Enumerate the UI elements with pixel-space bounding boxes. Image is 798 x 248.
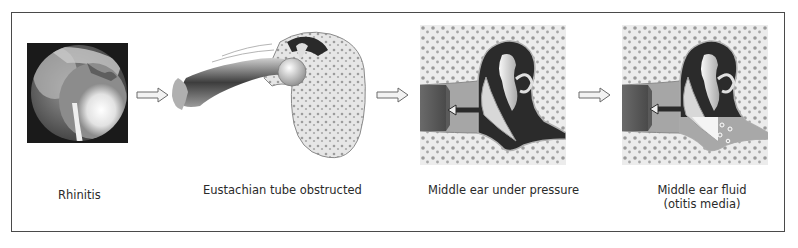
stage-label-eustachian: Eustachian tube obstructed <box>203 183 362 197</box>
eustachian-tube-illustration <box>172 24 370 164</box>
right-arrow-icon <box>578 87 612 103</box>
stage-label-rhinitis: Rhinitis <box>58 188 101 202</box>
right-arrow-icon <box>376 87 410 103</box>
rhinitis-photo <box>27 43 128 143</box>
middle-ear-fluid-illustration <box>622 25 768 165</box>
right-arrow-icon <box>136 87 170 103</box>
middle-ear-pressure-illustration <box>420 25 566 165</box>
stage-label-fluid: Middle ear fluid (otitis media) <box>652 183 752 211</box>
stage-label-pressure: Middle ear under pressure <box>428 183 579 197</box>
stage-label-fluid-line1: Middle ear fluid <box>652 183 752 197</box>
stage-label-fluid-line2: (otitis media) <box>652 197 752 211</box>
